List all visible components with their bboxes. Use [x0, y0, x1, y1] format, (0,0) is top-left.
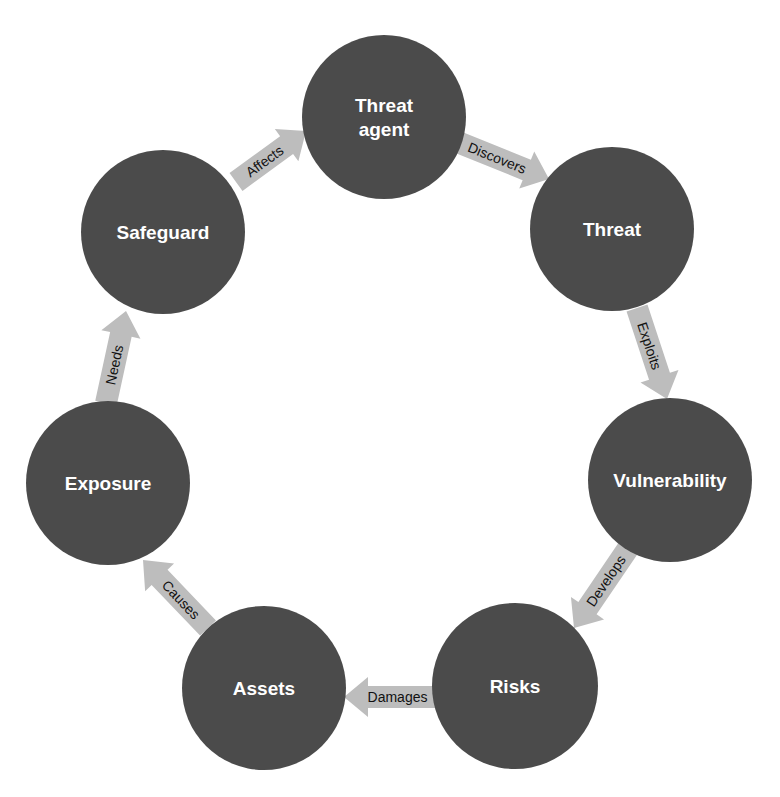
node-label: Safeguard — [117, 222, 210, 243]
edge-arrow-causes: Causes — [129, 546, 223, 642]
node-safeguard: Safeguard — [81, 150, 245, 314]
nodes-layer: ThreatagentThreatVulnerabilityRisksAsset… — [26, 35, 752, 770]
node-label: agent — [359, 119, 410, 140]
node-threat-agent: Threatagent — [302, 35, 466, 199]
node-vulnerability: Vulnerability — [588, 398, 752, 562]
node-label: Threat — [583, 219, 642, 240]
node-label: Threat — [355, 95, 414, 116]
edge-arrow-needs: Needs — [86, 307, 145, 407]
node-assets: Assets — [182, 606, 346, 770]
node-label: Vulnerability — [613, 470, 727, 491]
edge-arrow-damages: Damages — [344, 677, 435, 717]
threat-cycle-diagram: AffectsDiscoversExploitsDevelopsDamagesC… — [0, 0, 780, 797]
edge-arrow-exploits: Exploits — [618, 302, 686, 406]
node-label: Risks — [490, 676, 541, 697]
node-threat: Threat — [530, 147, 694, 311]
node-exposure: Exposure — [26, 401, 190, 565]
node-label: Exposure — [65, 473, 152, 494]
node-label: Assets — [233, 678, 295, 699]
edge-arrow-discovers: Discovers — [453, 124, 557, 197]
node-circle — [302, 35, 466, 199]
edge-label: Develops — [583, 552, 629, 609]
node-risks: Risks — [432, 603, 598, 769]
edge-label: Damages — [368, 689, 428, 705]
